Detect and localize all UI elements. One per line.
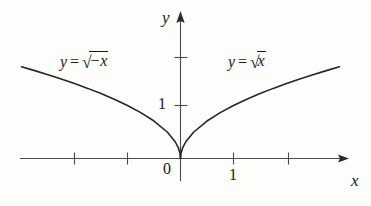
sqrt-function-graph-figure: y x 0 1 1 y=√−x y=√x [0, 0, 371, 206]
annotation-right-equation: y=√x [228, 50, 268, 70]
y-tick-label-1: 1 [158, 96, 166, 112]
y-axis-label: y [162, 9, 170, 26]
x-tick-label-1: 1 [229, 167, 237, 183]
annotation-left-equals: = [67, 53, 82, 70]
annotation-left-radicand: −x [89, 51, 108, 69]
curve-sqrt-x [181, 67, 340, 159]
graph-canvas [0, 0, 371, 206]
annotation-right-equals: = [235, 53, 250, 70]
annotation-left-equation: y=√−x [60, 50, 110, 70]
annotation-left-radical-group: √−x [82, 50, 110, 70]
origin-label: 0 [163, 161, 171, 177]
x-axis-label: x [351, 172, 359, 189]
annotation-right-radicand: x [257, 51, 265, 69]
annotation-right-radical-group: √x [250, 50, 267, 70]
curve-sqrt-neg-x [22, 67, 181, 159]
